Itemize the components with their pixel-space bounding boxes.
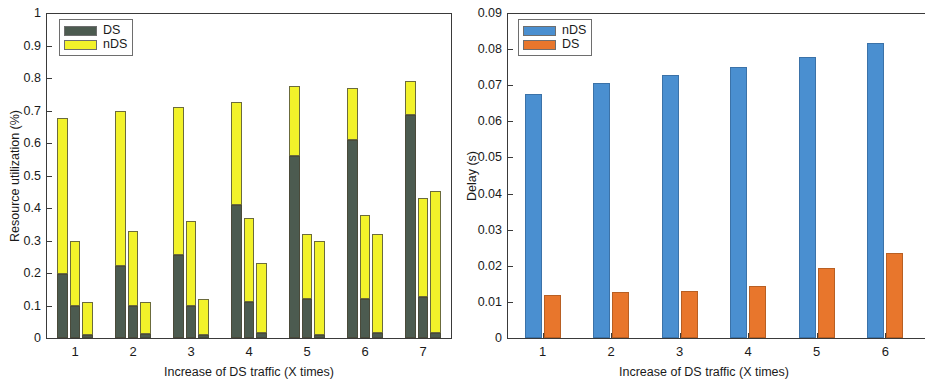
bar-segment-nds [82, 302, 93, 335]
bar-segment-nds [115, 111, 126, 266]
bar-segment-ds [128, 306, 139, 338]
bar-segment-nds [244, 218, 255, 302]
y-axis-tick-mark [47, 111, 52, 112]
bar-segment-ds [57, 274, 68, 338]
bar-segment-ds [405, 115, 416, 338]
table-row [681, 291, 698, 338]
table-row [730, 67, 747, 338]
table-row [544, 295, 561, 338]
table-row [886, 253, 903, 338]
bar-segment-nds [347, 88, 358, 140]
table-row [612, 292, 629, 338]
bar-segment-ds [360, 299, 371, 338]
y-tick-label: 0.03 [478, 223, 502, 237]
y-tick-label: 0.05 [478, 150, 502, 164]
table-row [256, 263, 267, 338]
bar-segment-nds [405, 81, 416, 115]
bar-segment-ds [186, 306, 197, 338]
bar-segment-nds [140, 302, 151, 334]
legend-label: DS [562, 38, 579, 51]
y-axis-tick-mark [47, 143, 52, 144]
bar-segment-nds [198, 299, 209, 335]
y-tick-label: 0.09 [478, 6, 502, 20]
bar-segment-nds [360, 215, 371, 299]
x-tick-label: 4 [745, 344, 752, 359]
table-row [82, 302, 93, 338]
x-tick-label: 3 [187, 344, 194, 359]
axis-frame-left [507, 13, 508, 339]
table-row [140, 302, 151, 338]
y-axis-tick-mark [47, 338, 52, 339]
bar-segment-ds [115, 266, 126, 338]
y-axis-title-left: Resource utilization (%) [8, 110, 22, 242]
bar-segment-ds [82, 335, 93, 338]
table-row [662, 75, 679, 338]
bar-segment-nds [70, 241, 81, 306]
x-tick-label: 4 [245, 344, 252, 359]
bar-segment-ds [289, 156, 300, 338]
table-row [302, 234, 313, 338]
legend-entry: DS [523, 38, 586, 51]
table-row [115, 111, 126, 338]
bar-segment-ds [173, 255, 184, 338]
y-tick-label: 1 [34, 6, 41, 20]
bar-segment-ds [198, 335, 209, 338]
bar-segment-nds [289, 86, 300, 156]
bar-segment-nds [231, 102, 242, 204]
y-axis-tick-mark [47, 273, 52, 274]
table-row [372, 234, 383, 338]
y-tick-label: 0.8 [24, 71, 41, 85]
bar-segment-ds [372, 333, 383, 338]
bar-segment-ds [418, 297, 429, 338]
y-tick-label: 0.06 [478, 114, 502, 128]
table-row [231, 102, 242, 338]
table-row [749, 286, 766, 338]
y-axis-tick-mark [47, 78, 52, 79]
y-tick-label: 0.4 [24, 201, 41, 215]
y-tick-label: 0.6 [24, 136, 41, 150]
x-tick-label: 5 [303, 344, 310, 359]
y-axis-title-right: Delay (s) [465, 151, 479, 201]
y-axis-tick-mark [47, 13, 52, 14]
y-tick-label: 0.02 [478, 259, 502, 273]
bar-segment-nds [256, 263, 267, 334]
y-tick-label: 0.1 [24, 299, 41, 313]
y-axis-tick-mark [47, 46, 52, 47]
legend-right: nDSDS [518, 19, 592, 56]
y-axis-tick-mark [508, 338, 513, 339]
axis-frame-bottom [46, 338, 452, 339]
bar-segment-ds [70, 306, 81, 338]
table-row [405, 81, 416, 338]
bar-segment-ds [314, 335, 325, 338]
table-row [360, 215, 371, 338]
table-row [198, 299, 209, 338]
axis-frame-right [451, 13, 452, 339]
legend-color-swatch [64, 40, 97, 50]
y-axis-tick-mark [47, 176, 52, 177]
y-axis-tick-mark [47, 241, 52, 242]
x-axis-title-left: Increase of DS traffic (X times) [164, 365, 334, 379]
table-row [418, 198, 429, 338]
bar-segment-ds [231, 205, 242, 338]
chart-panel-resource-utilization: 00.10.20.30.40.50.60.70.80.91 1234567 In… [0, 0, 461, 380]
table-row [867, 43, 884, 338]
bar-segment-nds [128, 231, 139, 306]
y-tick-label: 0.01 [478, 295, 502, 309]
bar-segment-ds [430, 333, 441, 338]
bar-segment-nds [430, 191, 441, 333]
y-tick-label: 0 [495, 331, 502, 345]
x-tick-label: 7 [419, 344, 426, 359]
legend-color-swatch [523, 40, 556, 50]
y-axis-tick-mark [47, 208, 52, 209]
x-tick-label: 3 [676, 344, 683, 359]
axis-frame-top [507, 13, 925, 14]
y-tick-label: 0.9 [24, 39, 41, 53]
table-row [128, 231, 139, 338]
table-row [593, 83, 610, 338]
y-axis-tick-mark [508, 85, 513, 86]
y-tick-label: 0.07 [478, 78, 502, 92]
bar-segment-ds [140, 334, 151, 338]
table-row [57, 118, 68, 338]
plot-area-right [507, 13, 925, 339]
